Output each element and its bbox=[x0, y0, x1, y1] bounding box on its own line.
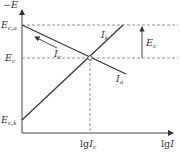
corrosion-point bbox=[88, 56, 92, 60]
ic-arrow bbox=[35, 37, 57, 48]
polarization-diagram: −E Ec,a Ec Ec,k Ic Ik Ia Ec lgIc lgI bbox=[0, 0, 181, 153]
y-axis-title: −E bbox=[3, 0, 18, 10]
x-axis-title: lgI bbox=[161, 138, 174, 149]
label-ec: Ec bbox=[4, 52, 16, 64]
label-ia: Ia bbox=[115, 73, 124, 85]
label-ic-arrow: Ic bbox=[53, 48, 62, 60]
label-lgic: lgIc bbox=[80, 138, 97, 150]
label-ec-span: Ec bbox=[145, 37, 157, 49]
label-eck: Ec,k bbox=[0, 114, 17, 126]
label-eca: Ec,a bbox=[0, 19, 17, 31]
anodic-curve bbox=[22, 25, 126, 74]
label-ik: Ik bbox=[100, 29, 109, 41]
